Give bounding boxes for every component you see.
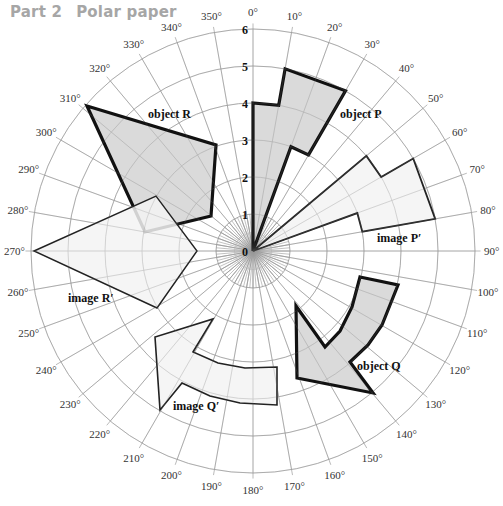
angle-label: 60° [452, 126, 467, 138]
shape-label: object P [340, 107, 382, 121]
angle-label: 190° [201, 480, 222, 492]
angle-label: 30° [365, 38, 380, 50]
angle-label: 260° [8, 286, 29, 298]
angle-label: 80° [480, 204, 495, 216]
ring-label: 0 [242, 245, 248, 259]
angle-label: 50° [428, 92, 443, 104]
shape-label: object R [148, 107, 191, 121]
shape-image-q- [155, 319, 277, 410]
angle-label: 130° [425, 398, 446, 410]
shape-object-q [296, 277, 398, 393]
ring-label: 5 [242, 60, 248, 74]
angle-label: 320° [89, 62, 110, 74]
angle-label: 350° [201, 10, 222, 22]
angle-label: 100° [478, 286, 499, 298]
angle-label: 340° [161, 21, 182, 33]
shape-label: object Q [357, 359, 401, 373]
angle-label: 110° [467, 327, 488, 339]
ring-label: 3 [242, 134, 248, 148]
angle-label: 180° [243, 484, 264, 496]
angle-label: 20° [327, 21, 342, 33]
angle-label: 10° [287, 10, 302, 22]
shape-label: image P′ [377, 231, 421, 245]
angle-label: 160° [324, 469, 345, 481]
angle-label: 290° [18, 163, 39, 175]
angle-label: 310° [60, 92, 81, 104]
angle-label: 170° [284, 480, 305, 492]
angle-label: 210° [123, 452, 144, 464]
angle-label: 220° [89, 428, 110, 440]
angle-label: 280° [8, 204, 29, 216]
angle-label: 150° [362, 452, 383, 464]
ring-label: 6 [242, 23, 248, 37]
angle-label: 300° [36, 126, 57, 138]
angle-label: 330° [123, 38, 144, 50]
shape-label: image Q′ [173, 399, 219, 413]
angle-label: 90° [484, 245, 499, 257]
angle-label: 40° [399, 62, 414, 74]
shape-label: image R′ [68, 291, 114, 305]
ring-label: 1 [242, 208, 248, 222]
angle-label: 230° [60, 398, 81, 410]
ring-label: 4 [242, 97, 248, 111]
angle-label: 70° [470, 163, 485, 175]
angle-label: 120° [449, 364, 470, 376]
angle-label: 270° [4, 245, 25, 257]
angle-label: 200° [161, 469, 182, 481]
angle-label: 250° [18, 327, 39, 339]
angle-label: 240° [36, 364, 57, 376]
grid-overlay [31, 29, 475, 473]
ring-label: 2 [242, 171, 248, 185]
angle-label: 140° [396, 428, 417, 440]
angle-label: 0° [248, 6, 258, 18]
polar-grid-diagram: object Pimage P′object Qimage Q′object R… [0, 0, 503, 506]
